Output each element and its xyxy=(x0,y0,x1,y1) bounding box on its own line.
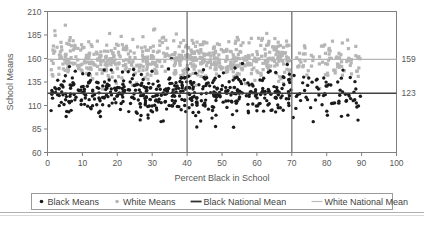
data-point-black-mean xyxy=(144,86,147,89)
data-point-white-mean xyxy=(173,64,176,67)
data-point-white-mean xyxy=(155,64,158,67)
data-point-white-mean xyxy=(251,53,254,56)
data-point-white-mean xyxy=(214,68,217,71)
data-point-white-mean xyxy=(69,49,72,52)
data-point-white-mean xyxy=(163,60,166,63)
x-tick-label: 10 xyxy=(78,158,88,168)
data-point-black-mean xyxy=(178,80,181,83)
data-point-white-mean xyxy=(137,69,140,72)
data-point-black-mean xyxy=(147,82,150,85)
data-point-white-mean xyxy=(181,69,184,72)
data-point-black-mean xyxy=(231,113,234,116)
data-point-black-mean xyxy=(324,80,327,83)
data-point-white-mean xyxy=(101,87,104,90)
data-point-white-mean xyxy=(209,66,212,69)
data-point-black-mean xyxy=(162,119,165,122)
data-point-white-mean xyxy=(209,60,212,63)
data-point-white-mean xyxy=(166,47,169,50)
data-point-black-mean xyxy=(81,72,84,75)
data-point-black-mean xyxy=(227,80,230,83)
data-point-black-mean xyxy=(148,98,151,101)
data-point-white-mean xyxy=(104,56,107,59)
data-point-black-mean xyxy=(86,84,89,87)
data-point-black-mean xyxy=(150,104,153,107)
data-point-white-mean xyxy=(131,38,134,41)
legend-marker-dot xyxy=(40,200,44,204)
data-point-black-mean xyxy=(73,98,76,101)
data-point-black-mean xyxy=(274,110,277,113)
data-point-black-mean xyxy=(327,83,330,86)
data-point-black-mean xyxy=(167,104,170,107)
data-point-black-mean xyxy=(122,90,125,93)
data-point-white-mean xyxy=(253,79,256,82)
data-point-black-mean xyxy=(57,87,60,90)
data-point-black-mean xyxy=(101,96,104,99)
data-point-black-mean xyxy=(187,86,190,89)
data-point-white-mean xyxy=(347,47,350,50)
data-point-black-mean xyxy=(163,100,166,103)
data-point-white-mean xyxy=(303,44,306,47)
data-point-white-mean xyxy=(225,55,228,58)
data-point-black-mean xyxy=(338,94,341,97)
data-point-black-mean xyxy=(325,109,328,112)
data-point-white-mean xyxy=(79,64,82,67)
data-point-white-mean xyxy=(55,46,58,49)
data-point-black-mean xyxy=(155,88,158,91)
data-point-black-mean xyxy=(256,104,259,107)
data-point-black-mean xyxy=(306,84,309,87)
data-point-black-mean xyxy=(122,85,125,88)
data-point-white-mean xyxy=(328,47,331,50)
data-point-white-mean xyxy=(158,44,161,47)
data-point-white-mean xyxy=(165,52,168,55)
data-point-black-mean xyxy=(114,79,117,82)
data-point-black-mean xyxy=(268,102,271,105)
data-point-white-mean xyxy=(282,46,285,49)
data-point-white-mean xyxy=(152,45,155,48)
data-point-black-mean xyxy=(344,100,347,103)
data-point-black-mean xyxy=(156,80,159,83)
data-point-white-mean xyxy=(336,62,339,65)
y-tick-label: 60 xyxy=(32,148,42,158)
data-point-white-mean xyxy=(216,60,219,63)
data-point-black-mean xyxy=(220,88,223,91)
data-point-black-mean xyxy=(173,95,176,98)
data-point-black-mean xyxy=(106,83,109,86)
data-point-black-mean xyxy=(233,86,236,89)
data-point-white-mean xyxy=(255,50,258,53)
data-point-white-mean xyxy=(57,66,60,69)
data-point-black-mean xyxy=(129,102,132,105)
data-point-white-mean xyxy=(105,64,108,67)
data-point-black-mean xyxy=(355,101,358,104)
data-point-white-mean xyxy=(259,44,262,47)
data-point-black-mean xyxy=(95,103,98,106)
data-point-white-mean xyxy=(164,70,167,73)
data-point-black-mean xyxy=(64,74,67,77)
data-point-white-mean xyxy=(259,72,262,75)
data-point-white-mean xyxy=(99,63,102,66)
data-point-black-mean xyxy=(208,84,211,87)
data-point-black-mean xyxy=(356,118,359,121)
data-point-black-mean xyxy=(337,100,340,103)
data-point-white-mean xyxy=(203,53,206,56)
data-point-white-mean xyxy=(215,72,218,75)
data-point-white-mean xyxy=(162,36,165,39)
data-point-white-mean xyxy=(73,62,76,65)
data-point-black-mean xyxy=(320,103,323,106)
data-point-white-mean xyxy=(334,71,337,74)
data-point-black-mean xyxy=(287,97,290,100)
data-point-black-mean xyxy=(306,98,309,101)
data-point-white-mean xyxy=(263,48,266,51)
data-point-white-mean xyxy=(341,41,344,44)
data-point-black-mean xyxy=(132,73,135,76)
data-point-black-mean xyxy=(176,105,179,108)
data-point-white-mean xyxy=(260,55,263,58)
data-point-black-mean xyxy=(195,100,198,103)
data-point-white-mean xyxy=(113,47,116,50)
data-point-black-mean xyxy=(146,105,149,108)
data-point-black-mean xyxy=(270,108,273,111)
data-point-white-mean xyxy=(140,46,143,49)
data-point-white-mean xyxy=(224,60,227,63)
data-point-black-mean xyxy=(150,69,153,72)
data-point-white-mean xyxy=(141,50,144,53)
data-point-white-mean xyxy=(341,74,344,77)
